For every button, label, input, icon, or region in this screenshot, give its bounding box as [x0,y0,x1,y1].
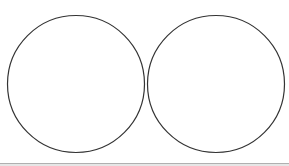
diagram-canvas [0,0,289,166]
left-circle [8,16,145,153]
bottom-divider [0,163,289,166]
right-circle [148,16,285,153]
